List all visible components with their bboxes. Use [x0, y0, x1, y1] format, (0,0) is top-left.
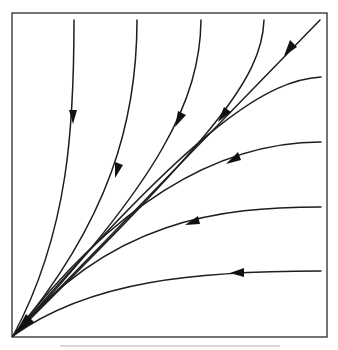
arrow-icon	[185, 216, 200, 225]
trajectory-top-1	[13, 20, 74, 336]
caption-stub	[60, 345, 280, 347]
arrow-icon	[175, 111, 186, 127]
arrow-icon	[230, 268, 244, 277]
phase-portrait-diagram	[0, 0, 338, 350]
trajectory-top-4	[13, 20, 264, 336]
arrow-icon	[115, 162, 123, 178]
trajectory-top-3	[13, 20, 201, 336]
arrow-icon	[284, 40, 297, 56]
